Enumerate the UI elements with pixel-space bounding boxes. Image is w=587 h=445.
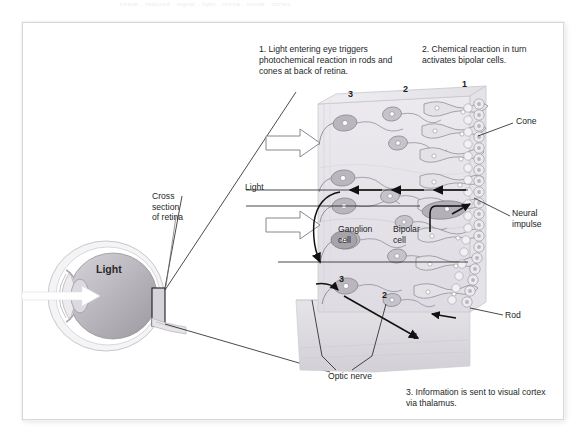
diagram-stage: tissue . reduced . signal . light . reti… <box>0 0 587 445</box>
layer-number-bottom-2: 2 <box>382 290 387 300</box>
label-rod: Rod <box>505 310 521 321</box>
layer-number-top-2: 2 <box>403 84 408 94</box>
label-ganglion-cell: Ganglion cell <box>338 224 384 245</box>
layer-number-top-1: 1 <box>462 79 467 89</box>
label-neural-impulse: Neural impulse <box>512 208 564 229</box>
label-optic-nerve: Optic nerve <box>328 371 372 382</box>
label-cone: Cone <box>516 116 537 127</box>
light-arrows <box>266 129 320 239</box>
label-light-eye: Light <box>96 264 122 275</box>
caption-step-2: 2. Chemical reaction in turn activates b… <box>422 44 562 66</box>
layer-number-bottom-1: 1 <box>413 331 418 341</box>
layer-number-top-3: 3 <box>348 89 353 99</box>
caption-step-1: 1. Light entering eye triggers photochem… <box>259 44 409 78</box>
retina-magnified-block <box>296 86 488 372</box>
layer-number-bottom-3: 3 <box>339 274 344 284</box>
eye-diagram <box>22 241 186 351</box>
caption-step-3: 3. Information is sent to visual cortex … <box>406 387 556 409</box>
label-bipolar-cell: Bipolar cell <box>393 224 435 245</box>
label-light-retina: Light <box>245 182 264 193</box>
label-cross-section-of-retina: Cross section of retina <box>152 191 212 223</box>
